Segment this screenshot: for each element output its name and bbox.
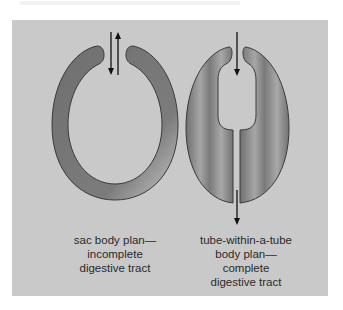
caption-line: digestive tract bbox=[60, 261, 170, 275]
tube-body-right-half bbox=[240, 47, 289, 203]
up-arrow-icon bbox=[115, 32, 121, 75]
tube-body-left-half bbox=[186, 47, 233, 203]
sac-body-shape bbox=[52, 46, 178, 200]
caption-line: tube-within-a-tube bbox=[186, 233, 306, 247]
mouth-down-arrow-icon bbox=[234, 32, 240, 76]
left-arrows bbox=[108, 32, 121, 75]
right-arrows bbox=[234, 32, 240, 225]
down-arrow-icon bbox=[108, 32, 114, 75]
caption-line: sac body plan— bbox=[60, 233, 170, 247]
caption-line: body plan— bbox=[186, 247, 306, 261]
anus-down-arrow-icon bbox=[234, 190, 240, 225]
sac-body-plan-caption: sac body plan— incomplete digestive trac… bbox=[60, 233, 170, 275]
caption-line: digestive tract bbox=[186, 275, 306, 289]
tube-body-plan-caption: tube-within-a-tube body plan— complete d… bbox=[186, 233, 306, 289]
caption-line: incomplete bbox=[60, 247, 170, 261]
caption-line: complete bbox=[186, 261, 306, 275]
